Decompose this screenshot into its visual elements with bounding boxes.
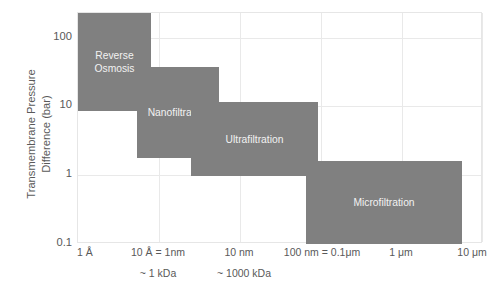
y-tick-label-100: 100	[42, 31, 72, 42]
y-axis-title-line-1: Transmembrane Pressure	[24, 69, 39, 199]
bar-label-reverse-osmosis: Reverse Osmosis	[94, 49, 134, 75]
x-axis-secondary-labels: ~ 1 kDa ~ 1000 kDa	[0, 266, 491, 282]
bar-microfiltration: Microfiltration	[306, 161, 462, 244]
x-tick-label-10-nm: 10 nm	[224, 245, 253, 259]
x-tick-label-1-um: 1 μm	[389, 245, 413, 259]
x-secondary-label-1-kda: ~ 1 kDa	[140, 266, 176, 280]
y-tick-label-1: 1	[42, 168, 72, 179]
x-tick-label-1-nm: 10 Å = 1nm	[131, 245, 185, 259]
x-secondary-label-1000-kda: ~ 1000 kDa	[217, 266, 271, 280]
bar-ultrafiltration: Ultrafiltration	[191, 102, 318, 176]
x-tick-label-10-um: 10 μm	[457, 245, 486, 259]
gridline-vertical-10um	[482, 13, 483, 242]
y-tick-label-10: 10	[42, 99, 72, 110]
x-tick-label-100-nm: 100 nm = 0.1μm	[284, 245, 360, 259]
x-axis-tick-labels: 1 Å 10 Å = 1nm 10 nm 100 nm = 0.1μm 1 μm…	[0, 245, 491, 261]
plot-area: Reverse Osmosis Nanofiltration Ultrafilt…	[77, 12, 482, 243]
bar-label-ultrafiltration: Ultrafiltration	[226, 133, 284, 146]
x-tick-label-1-angstrom: 1 Å	[77, 245, 93, 259]
bar-label-microfiltration: Microfiltration	[353, 196, 414, 209]
membrane-filtration-chart: Transmembrane Pressure Difference (bar) …	[0, 0, 491, 292]
